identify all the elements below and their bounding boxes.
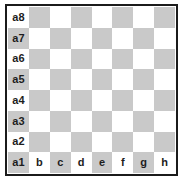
square-e7[interactable] xyxy=(92,28,113,49)
square-d8[interactable] xyxy=(71,7,92,28)
square-a5[interactable]: a5 xyxy=(8,69,29,90)
square-f3[interactable] xyxy=(112,111,133,132)
square-a3[interactable]: a3 xyxy=(8,111,29,132)
square-h3[interactable] xyxy=(154,111,175,132)
square-b8[interactable] xyxy=(29,7,50,28)
square-g6[interactable] xyxy=(133,49,154,70)
square-c3[interactable] xyxy=(50,111,71,132)
square-g5[interactable] xyxy=(133,69,154,90)
square-h6[interactable] xyxy=(154,49,175,70)
square-e6[interactable] xyxy=(92,49,113,70)
file-label-e: e xyxy=(99,157,105,168)
square-a1[interactable]: a1 xyxy=(8,152,29,173)
rank-label-a4: a4 xyxy=(12,95,24,106)
square-b2[interactable] xyxy=(29,132,50,153)
square-b3[interactable] xyxy=(29,111,50,132)
rank-label-a2: a2 xyxy=(12,136,24,147)
file-label-b: b xyxy=(36,157,43,168)
square-b6[interactable] xyxy=(29,49,50,70)
square-d5[interactable] xyxy=(71,69,92,90)
square-g2[interactable] xyxy=(133,132,154,153)
square-d6[interactable] xyxy=(71,49,92,70)
square-c4[interactable] xyxy=(50,90,71,111)
square-a6[interactable]: a6 xyxy=(8,49,29,70)
rank-label-a3: a3 xyxy=(12,116,24,127)
square-c6[interactable] xyxy=(50,49,71,70)
square-f8[interactable] xyxy=(112,7,133,28)
rank-label-a6: a6 xyxy=(12,53,24,64)
square-f4[interactable] xyxy=(112,90,133,111)
square-b7[interactable] xyxy=(29,28,50,49)
square-h7[interactable] xyxy=(154,28,175,49)
square-c7[interactable] xyxy=(50,28,71,49)
square-d4[interactable] xyxy=(71,90,92,111)
square-f2[interactable] xyxy=(112,132,133,153)
square-f6[interactable] xyxy=(112,49,133,70)
square-a2[interactable]: a2 xyxy=(8,132,29,153)
square-b5[interactable] xyxy=(29,69,50,90)
square-e5[interactable] xyxy=(92,69,113,90)
square-f7[interactable] xyxy=(112,28,133,49)
square-a8[interactable]: a8 xyxy=(8,7,29,28)
square-g8[interactable] xyxy=(133,7,154,28)
square-d1[interactable]: d xyxy=(71,152,92,173)
square-d3[interactable] xyxy=(71,111,92,132)
square-h8[interactable] xyxy=(154,7,175,28)
file-label-g: g xyxy=(140,157,147,168)
square-f1[interactable]: f xyxy=(112,152,133,173)
square-c2[interactable] xyxy=(50,132,71,153)
square-c8[interactable] xyxy=(50,7,71,28)
square-h2[interactable] xyxy=(154,132,175,153)
file-label-c: c xyxy=(57,157,63,168)
square-g4[interactable] xyxy=(133,90,154,111)
square-a4[interactable]: a4 xyxy=(8,90,29,111)
file-label-h: h xyxy=(161,157,168,168)
file-label-d: d xyxy=(78,157,85,168)
square-g7[interactable] xyxy=(133,28,154,49)
square-h4[interactable] xyxy=(154,90,175,111)
square-d7[interactable] xyxy=(71,28,92,49)
chessboard-figure: a8a7a6a5a4a3a2a1bcdefgh xyxy=(0,0,187,184)
square-h5[interactable] xyxy=(154,69,175,90)
square-c5[interactable] xyxy=(50,69,71,90)
square-g1[interactable]: g xyxy=(133,152,154,173)
rank-label-a8: a8 xyxy=(12,12,24,23)
square-e4[interactable] xyxy=(92,90,113,111)
rank-label-a1: a1 xyxy=(12,157,24,168)
square-a7[interactable]: a7 xyxy=(8,28,29,49)
square-e2[interactable] xyxy=(92,132,113,153)
chessboard: a8a7a6a5a4a3a2a1bcdefgh xyxy=(5,4,178,176)
chessboard-grid: a8a7a6a5a4a3a2a1bcdefgh xyxy=(8,7,175,173)
square-e1[interactable]: e xyxy=(92,152,113,173)
square-b1[interactable]: b xyxy=(29,152,50,173)
square-f5[interactable] xyxy=(112,69,133,90)
square-c1[interactable]: c xyxy=(50,152,71,173)
square-e3[interactable] xyxy=(92,111,113,132)
rank-label-a7: a7 xyxy=(12,33,24,44)
square-b4[interactable] xyxy=(29,90,50,111)
square-d2[interactable] xyxy=(71,132,92,153)
square-h1[interactable]: h xyxy=(154,152,175,173)
square-g3[interactable] xyxy=(133,111,154,132)
square-e8[interactable] xyxy=(92,7,113,28)
file-label-f: f xyxy=(121,157,125,168)
rank-label-a5: a5 xyxy=(12,74,24,85)
